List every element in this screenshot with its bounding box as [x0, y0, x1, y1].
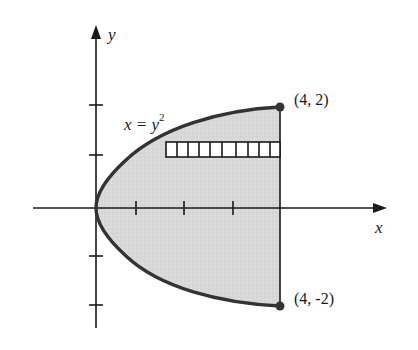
curve-equation-label: x = y2 — [124, 114, 165, 133]
point-4-2-marker — [276, 103, 285, 112]
diagram-canvas — [0, 0, 418, 350]
curve-equation-text: x = y — [124, 115, 159, 134]
point-4-neg2-label: (4, -2) — [294, 291, 334, 307]
point-4-2-label: (4, 2) — [294, 92, 329, 108]
x-axis-arrow-icon — [373, 203, 387, 213]
point-4-neg2-marker — [276, 302, 285, 311]
y-axis-arrow-icon — [91, 25, 101, 39]
shaded-region — [96, 107, 280, 306]
x-axis-label: x — [375, 219, 383, 236]
approximating-strip — [166, 142, 280, 157]
y-axis-label: y — [108, 26, 116, 43]
curve-equation-exponent: 2 — [159, 111, 165, 123]
region-diagram: y x x = y2 (4, 2) (4, -2) — [0, 0, 418, 350]
